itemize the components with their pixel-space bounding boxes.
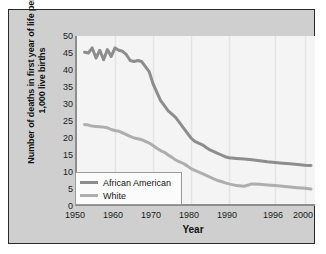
y-axis-tick: 35 <box>53 83 73 92</box>
legend-swatch-white <box>80 194 98 197</box>
x-axis-title: Year <box>69 224 317 235</box>
x-axis-tick-labels: 1950196019701980199019962000 <box>75 210 315 222</box>
y-axis-tick: 5 <box>53 185 73 194</box>
legend: African American White <box>75 172 182 205</box>
legend-item: White <box>80 189 177 202</box>
series-line-african-american <box>85 48 311 166</box>
legend-swatch-african-american <box>80 181 98 184</box>
legend-label-african-american: African American <box>103 178 171 188</box>
x-axis-tick: 1980 <box>169 210 209 220</box>
x-axis-tick: 1960 <box>93 210 133 220</box>
y-axis-tick: 50 <box>53 32 73 41</box>
y-axis-tick: 10 <box>53 168 73 177</box>
y-axis-tick: 25 <box>53 117 73 126</box>
legend-label-white: White <box>103 191 126 201</box>
x-axis-tick: 1990 <box>207 210 247 220</box>
y-axis-tick: 40 <box>53 66 73 75</box>
x-axis-tick: 2000 <box>283 210 323 220</box>
chart-panel: Number of deaths in first year of life p… <box>8 9 315 244</box>
y-axis-tick: 15 <box>53 151 73 160</box>
y-axis-tick: 30 <box>53 100 73 109</box>
y-axis-tick: 20 <box>53 134 73 143</box>
y-axis-tick: 45 <box>53 49 73 58</box>
x-axis-tick: 1950 <box>55 210 95 220</box>
y-axis-title: Number of deaths in first year of life p… <box>26 0 47 171</box>
x-axis-tick: 1970 <box>131 210 171 220</box>
legend-item: African American <box>80 176 177 189</box>
figure: Number of deaths in first year of life p… <box>0 0 326 254</box>
